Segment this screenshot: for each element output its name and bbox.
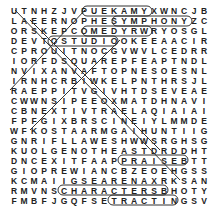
grid-cell[interactable]: G [179,196,189,206]
grid-cell[interactable]: H [159,96,169,106]
grid-cell[interactable]: A [169,106,179,116]
grid-cell[interactable]: M [89,26,99,36]
grid-cell[interactable]: I [99,36,109,46]
grid-cell[interactable]: L [159,116,169,126]
grid-cell[interactable]: O [29,146,39,156]
grid-cell[interactable]: E [169,66,179,76]
grid-cell[interactable]: A [39,176,49,186]
grid-cell[interactable]: V [169,86,179,96]
grid-cell[interactable]: I [139,116,149,126]
grid-cell[interactable]: S [59,56,69,66]
grid-cell[interactable]: N [169,6,179,16]
grid-cell[interactable]: R [199,46,209,56]
grid-cell[interactable]: P [159,56,169,66]
grid-cell[interactable]: A [89,56,99,66]
grid-cell[interactable]: P [59,26,69,36]
grid-cell[interactable]: S [159,156,169,166]
grid-cell[interactable]: G [89,86,99,96]
grid-cell[interactable]: W [89,76,99,86]
grid-cell[interactable]: L [59,136,69,146]
grid-cell[interactable]: P [19,46,29,56]
grid-cell[interactable]: T [169,126,179,136]
grid-cell[interactable]: E [99,196,109,206]
grid-cell[interactable]: C [59,186,69,196]
grid-cell[interactable]: E [149,36,159,46]
grid-cell[interactable]: R [159,176,169,186]
grid-cell[interactable]: F [19,126,29,136]
grid-cell[interactable]: R [19,26,29,36]
grid-cell[interactable]: O [149,166,159,176]
grid-cell[interactable]: D [149,146,159,156]
grid-cell[interactable]: I [189,126,199,136]
grid-cell[interactable]: H [69,186,79,196]
grid-cell[interactable]: W [29,96,39,106]
grid-cell[interactable]: B [69,116,79,126]
grid-cell[interactable]: J [189,76,199,86]
grid-cell[interactable]: A [99,176,109,186]
grid-cell[interactable]: M [129,16,139,26]
grid-cell[interactable]: Y [179,16,189,26]
grid-cell[interactable]: E [119,176,129,186]
grid-cell[interactable]: M [119,96,129,106]
grid-cell[interactable]: Y [199,186,209,196]
grid-cell[interactable]: R [159,136,169,146]
grid-cell[interactable]: L [199,56,209,66]
grid-cell[interactable]: A [89,156,99,166]
grid-cell[interactable]: M [29,176,39,186]
grid-cell[interactable]: R [89,186,99,196]
grid-cell[interactable]: F [39,56,49,66]
grid-cell[interactable]: T [189,156,199,166]
grid-cell[interactable]: R [99,106,109,116]
grid-cell[interactable]: H [39,6,49,16]
grid-cell[interactable]: V [79,106,89,116]
grid-cell[interactable]: T [89,106,99,116]
grid-cell[interactable]: P [129,76,139,86]
grid-cell[interactable]: E [59,146,69,156]
grid-cell[interactable]: F [9,116,19,126]
grid-cell[interactable]: E [129,186,139,196]
grid-cell[interactable]: N [19,136,29,146]
grid-cell[interactable]: H [39,76,49,86]
grid-cell[interactable]: H [179,136,189,146]
grid-cell[interactable]: V [109,86,119,96]
grid-cell[interactable]: D [49,56,59,66]
grid-cell[interactable]: J [59,6,69,16]
grid-cell[interactable]: H [149,16,159,26]
grid-cell[interactable]: H [119,136,129,146]
grid-cell[interactable]: I [39,136,49,146]
grid-cell[interactable]: D [149,96,159,106]
grid-cell[interactable]: N [159,126,169,136]
grid-cell[interactable]: L [199,26,209,36]
grid-cell[interactable]: G [169,136,179,146]
grid-cell[interactable]: O [39,46,49,56]
grid-cell[interactable]: S [189,196,199,206]
grid-cell[interactable]: A [129,196,139,206]
grid-cell[interactable]: B [179,156,189,166]
grid-cell[interactable]: B [29,196,39,206]
grid-cell[interactable]: S [179,26,189,36]
grid-cell[interactable]: I [179,126,189,136]
grid-cell[interactable]: S [179,76,189,86]
grid-cell[interactable]: R [99,56,109,66]
grid-cell[interactable]: T [189,186,199,196]
grid-cell[interactable]: D [89,36,99,46]
grid-cell[interactable]: D [179,146,189,156]
grid-cell[interactable]: R [59,76,69,86]
grid-cell[interactable]: R [109,176,119,186]
grid-cell[interactable]: C [49,76,59,86]
grid-cell[interactable]: S [129,146,139,156]
grid-cell[interactable]: P [39,86,49,96]
grid-cell[interactable]: T [149,196,159,206]
grid-cell[interactable]: C [9,96,19,106]
grid-cell[interactable]: H [119,86,129,96]
grid-cell[interactable]: P [39,166,49,176]
grid-cell[interactable]: T [99,66,109,76]
grid-cell[interactable]: I [79,76,89,86]
grid-cell[interactable]: A [19,86,29,96]
grid-cell[interactable]: T [69,36,79,46]
grid-cell[interactable]: N [169,16,179,26]
grid-cell[interactable]: M [129,6,139,16]
grid-cell[interactable]: F [79,196,89,206]
grid-cell[interactable]: T [199,156,209,166]
grid-cell[interactable]: I [129,126,139,136]
